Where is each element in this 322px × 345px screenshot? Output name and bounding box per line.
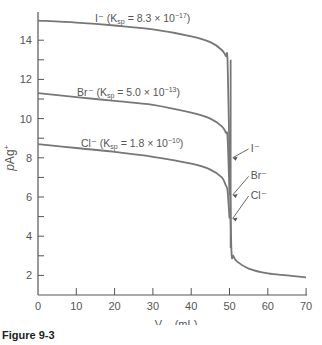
annotation-label: Cl⁻ — [251, 189, 267, 201]
curve-chloride — [38, 144, 230, 218]
titration-chart: 2468101214010203040506070VAg+(mL)pAg+ I⁻… — [0, 0, 322, 325]
x-tick-label: 40 — [185, 300, 197, 312]
x-tick-label: 50 — [223, 300, 235, 312]
annotation-arrow — [233, 196, 249, 219]
annotation-label: I⁻ — [251, 142, 260, 154]
y-tick-label: 12 — [20, 73, 32, 85]
x-tick-label: 70 — [300, 300, 312, 312]
x-tick-label: 60 — [262, 300, 274, 312]
series-label-bromide: Br⁻ (Ksp = 5.0 × 10−13) — [77, 86, 180, 100]
series-label-iodide: I⁻ (Ksp = 8.3 × 10−17) — [95, 12, 190, 26]
x-tick-label: 30 — [147, 300, 159, 312]
y-tick-label: 2 — [26, 269, 32, 281]
y-tick-label: 10 — [20, 113, 32, 125]
annotation-arrow — [233, 149, 249, 158]
figure-caption: Figure 9-3 — [2, 329, 55, 341]
annotation-label: Br⁻ — [251, 169, 267, 181]
y-tick-label: 14 — [20, 34, 32, 46]
x-tick-label: 10 — [70, 300, 82, 312]
curves — [38, 21, 306, 278]
series-labels: I⁻ (Ksp = 8.3 × 10−17)Br⁻ (Ksp = 5.0 × 1… — [77, 12, 267, 222]
y-tick-label: 6 — [26, 191, 32, 203]
series-label-chloride: Cl⁻ (Ksp = 1.8 × 10−10) — [81, 137, 183, 151]
y-tick-label: 8 — [26, 152, 32, 164]
x-axis-label: VAg+(mL) — [155, 318, 198, 325]
annotation-arrow — [233, 176, 249, 195]
y-tick-label: 4 — [26, 230, 32, 242]
x-tick-label: 20 — [108, 300, 120, 312]
y-axis-label: pAg+ — [2, 144, 17, 171]
x-tick-label: 0 — [35, 300, 41, 312]
